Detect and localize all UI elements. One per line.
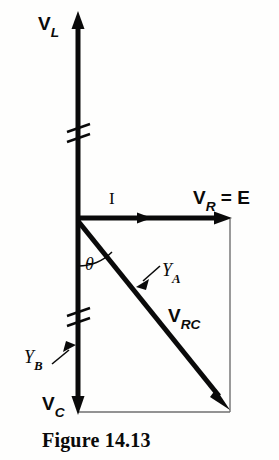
v-l-arrowhead (72, 11, 85, 29)
label-v-r-equality: = E (216, 187, 250, 208)
label-v-r-sub: R (206, 199, 216, 214)
label-v-r-main: V (193, 187, 206, 208)
label-current-i: I (109, 190, 115, 207)
label-v-l-sub: L (51, 25, 59, 40)
label-v-l: VL (38, 14, 59, 37)
label-y-b-sub: B (34, 358, 43, 373)
label-v-rc-sub: RC (181, 317, 201, 332)
label-v-c: VC (42, 394, 65, 417)
figure-caption: Figure 14.13 (42, 429, 151, 452)
label-y-a-sub: A (172, 271, 181, 286)
label-y-a-main: Y (162, 260, 172, 280)
label-v-r-equals-e: VR = E (193, 188, 250, 211)
label-v-l-main: V (38, 13, 51, 34)
label-theta: θ (85, 255, 94, 273)
y-b-leader-arrow (52, 341, 76, 364)
label-y-b: YB (24, 348, 43, 371)
figure-canvas: VL I VR = E θ YA VRC YB VC Figure 14.13 (0, 0, 279, 460)
label-v-rc-main: V (168, 305, 181, 326)
label-v-c-sub: C (55, 405, 65, 420)
y-a-leader-arrow (136, 266, 160, 290)
phasor-diagram-graphic (0, 0, 279, 460)
label-y-a: YA (162, 261, 181, 284)
label-y-b-main: Y (24, 347, 34, 367)
label-v-rc: VRC (168, 306, 200, 329)
label-v-c-main: V (42, 393, 55, 414)
current-direction-arrowhead (137, 213, 152, 224)
